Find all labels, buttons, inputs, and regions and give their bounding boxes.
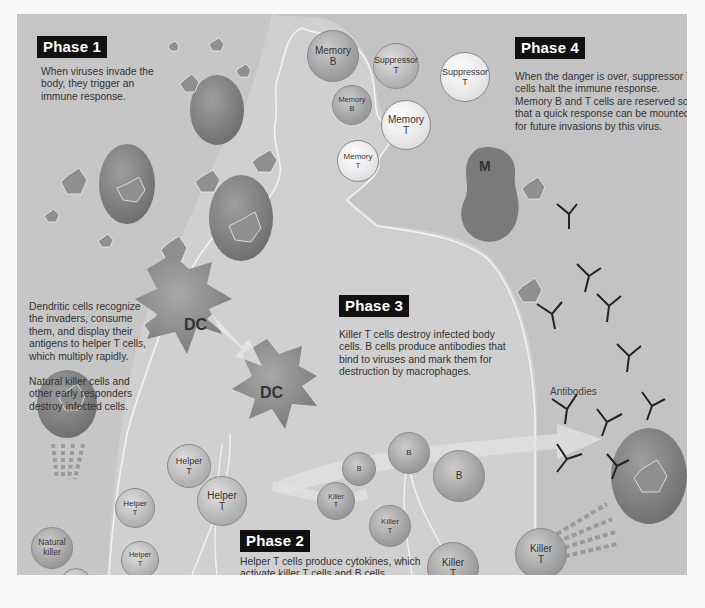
dendritic-cell-label: DC [260, 384, 283, 402]
dendritic-cell-label: DC [184, 316, 207, 334]
killer-t-cell: KillerT [317, 482, 355, 520]
memory-t-cell: MemoryT [381, 100, 431, 150]
killer-t-cell: KillerT [369, 505, 411, 547]
phase-3-label: Phase 3 [339, 295, 409, 317]
natural-killer-note: Natural killer cells and other early res… [29, 376, 139, 413]
phase-2-label: Phase 2 [240, 530, 310, 552]
phase-4-label: Phase 4 [515, 37, 585, 59]
phase-1-label: Phase 1 [37, 36, 107, 58]
phase-3-description: Killer T cells destroy infected body cel… [339, 329, 519, 379]
memory-b-cell: MemoryB [307, 30, 359, 82]
immune-response-diagram: Phase 1 When viruses invade the body, th… [17, 14, 687, 575]
b-cell: B [388, 432, 430, 474]
suppressor-t-cell: SuppressorT [440, 52, 490, 102]
phase-2-description: Helper T cells produce cytokines, which … [240, 556, 440, 575]
phase-1-description: When viruses invade the body, they trigg… [41, 66, 161, 103]
natural-killer-cell: Naturalkiller [31, 527, 73, 569]
b-cell: B [433, 450, 485, 502]
antibodies-label: Antibodies [550, 386, 597, 397]
helper-t-cell: HelperT [115, 488, 155, 528]
dendritic-cells-note: Dendritic cells recognize the invaders, … [29, 301, 149, 363]
phase-4-description: When the danger is over, suppressor T ce… [515, 71, 687, 133]
macrophage-label: M [479, 158, 491, 174]
b-cell: B [342, 452, 376, 486]
memory-b-cell: MemoryB [332, 85, 372, 125]
helper-t-cell-main: HelperT [197, 476, 247, 526]
killer-t-cell: KillerT [515, 528, 567, 575]
memory-t-cell: MemoryT [337, 140, 379, 182]
suppressor-t-cell: SuppressorT [373, 43, 419, 89]
helper-t-cell: HelperT [121, 541, 159, 575]
